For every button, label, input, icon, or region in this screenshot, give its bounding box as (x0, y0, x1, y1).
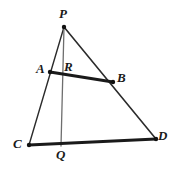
segment-pc (29, 27, 64, 145)
geometry-figure: PARBCQD (0, 0, 176, 172)
vertex-label-b: B (117, 71, 126, 84)
vertex-dot-p (62, 25, 66, 29)
vertex-label-q: Q (56, 148, 65, 161)
segment-cd (29, 139, 156, 145)
segments-layer (29, 27, 156, 146)
vertex-label-c: C (13, 137, 22, 150)
vertex-dot-b (111, 80, 115, 84)
geometry-canvas (0, 0, 176, 172)
vertex-label-a: A (36, 62, 45, 75)
segment-pq (61, 27, 64, 146)
vertex-dot-c (27, 143, 31, 147)
vertex-label-p: P (59, 7, 67, 20)
vertex-label-r: R (64, 60, 73, 73)
segment-ab (50, 72, 113, 82)
vertex-label-d: D (158, 129, 167, 142)
vertex-dot-a (48, 70, 52, 74)
